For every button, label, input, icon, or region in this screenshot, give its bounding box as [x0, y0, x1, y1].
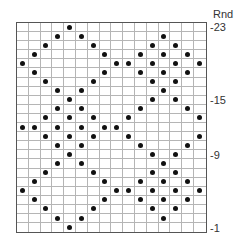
- chart-cell: [64, 59, 76, 68]
- chart-cell: [29, 68, 41, 77]
- chart-cell: [41, 214, 53, 223]
- chart-cell: [147, 78, 159, 87]
- chart-cell: [111, 32, 123, 41]
- chart-cell: [170, 150, 182, 159]
- chart-cell: [52, 187, 64, 196]
- stitch-dot-icon: [150, 43, 155, 48]
- chart-cell: [194, 132, 206, 141]
- chart-cell: [159, 132, 171, 141]
- chart-cell: [194, 205, 206, 214]
- chart-cell: [123, 59, 135, 68]
- chart-cell: [29, 214, 41, 223]
- chart-cell: [100, 178, 112, 187]
- stitch-dot-icon: [138, 179, 143, 184]
- chart-cell: [159, 50, 171, 59]
- chart-cell: [29, 196, 41, 205]
- stitch-dot-icon: [150, 79, 155, 84]
- chart-cell: [100, 159, 112, 168]
- chart-cell: [170, 132, 182, 141]
- stitch-dot-icon: [43, 206, 48, 211]
- stitch-dot-icon: [79, 88, 84, 93]
- chart-cell: [100, 87, 112, 96]
- chart-cell: [76, 169, 88, 178]
- chart-cell: [194, 178, 206, 187]
- round-label-15: -15: [210, 95, 226, 106]
- chart-cell: [182, 169, 194, 178]
- chart-cell: [41, 68, 53, 77]
- chart-cell: [52, 205, 64, 214]
- chart-cell: [88, 187, 100, 196]
- chart-cell: [17, 32, 29, 41]
- chart-cell: [111, 96, 123, 105]
- chart-cell: [147, 150, 159, 159]
- chart-cell: [41, 205, 53, 214]
- round-label-1: -1: [210, 223, 220, 234]
- chart-cell: [147, 114, 159, 123]
- chart-cell: [88, 114, 100, 123]
- chart-cell: [100, 169, 112, 178]
- chart-cell: [194, 32, 206, 41]
- chart-cell: [147, 23, 159, 32]
- chart-cell: [194, 159, 206, 168]
- stitch-dot-icon: [55, 88, 60, 93]
- chart-cell: [64, 32, 76, 41]
- chart-cell: [41, 223, 53, 232]
- chart-cell: [194, 96, 206, 105]
- stitch-dot-icon: [185, 106, 190, 111]
- chart-cell: [170, 96, 182, 105]
- stitch-dot-icon: [32, 197, 37, 202]
- chart-cell: [88, 32, 100, 41]
- chart-cell: [64, 169, 76, 178]
- chart-cell: [88, 23, 100, 32]
- stitch-dot-icon: [161, 197, 166, 202]
- chart-cell: [76, 132, 88, 141]
- chart-cell: [159, 178, 171, 187]
- chart-cell: [159, 196, 171, 205]
- chart-cell: [100, 59, 112, 68]
- chart-cell: [76, 123, 88, 132]
- chart-cell: [159, 169, 171, 178]
- stitch-dot-icon: [150, 188, 155, 193]
- chart-cell: [64, 187, 76, 196]
- chart-cell: [170, 87, 182, 96]
- stitch-dot-icon: [138, 197, 143, 202]
- chart-cell: [64, 159, 76, 168]
- chart-cell: [41, 87, 53, 96]
- stitch-dot-icon: [79, 106, 84, 111]
- chart-cell: [76, 32, 88, 41]
- chart-cell: [147, 178, 159, 187]
- stitch-dot-icon: [185, 52, 190, 57]
- chart-cell: [88, 105, 100, 114]
- chart-cell: [64, 87, 76, 96]
- stitch-dot-icon: [67, 152, 72, 157]
- chart-cell: [147, 123, 159, 132]
- chart-cell: [100, 78, 112, 87]
- chart-cell: [64, 205, 76, 214]
- chart-cell: [29, 114, 41, 123]
- chart-cell: [147, 169, 159, 178]
- chart-cell: [123, 141, 135, 150]
- chart-cell: [182, 150, 194, 159]
- stitch-dot-icon: [161, 88, 166, 93]
- chart-cell: [123, 196, 135, 205]
- stitch-dot-icon: [55, 143, 60, 148]
- chart-cell: [111, 41, 123, 50]
- chart-cell: [135, 214, 147, 223]
- stitch-dot-icon: [67, 134, 72, 139]
- chart-cell: [111, 205, 123, 214]
- chart-cell: [76, 96, 88, 105]
- stitch-dot-icon: [161, 34, 166, 39]
- chart-cell: [182, 87, 194, 96]
- chart-cell: [135, 132, 147, 141]
- stitch-dot-icon: [20, 61, 25, 66]
- chart-cell: [182, 78, 194, 87]
- chart-cell: [135, 169, 147, 178]
- chart-cell: [100, 96, 112, 105]
- chart-cell: [88, 96, 100, 105]
- stitch-dot-icon: [173, 79, 178, 84]
- chart-cell: [147, 68, 159, 77]
- chart-cell: [123, 214, 135, 223]
- stitch-dot-icon: [79, 161, 84, 166]
- chart-cell: [29, 150, 41, 159]
- chart-cell: [64, 196, 76, 205]
